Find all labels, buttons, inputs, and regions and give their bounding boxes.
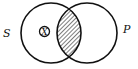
set-label-s: S xyxy=(3,27,11,40)
x-marker-label: X xyxy=(40,27,48,37)
set-label-p: P xyxy=(122,23,131,36)
venn-diagram: X S P xyxy=(0,0,138,69)
